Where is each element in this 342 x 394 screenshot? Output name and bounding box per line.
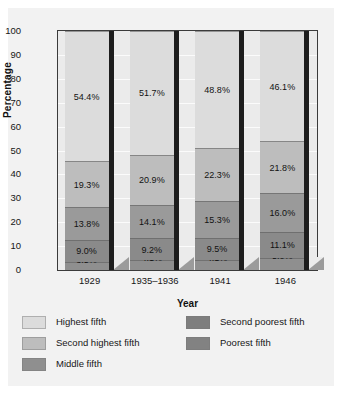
legend-swatch <box>22 316 46 329</box>
bar-segment[interactable]: 13.8% <box>65 207 109 240</box>
bar-segment-value-label: 46.1% <box>260 82 304 91</box>
y-axis-tick-label: 20 <box>0 217 21 227</box>
bar-segment-value-label: 51.7% <box>130 89 174 98</box>
legend-label: Middle fifth <box>56 357 102 371</box>
bar-drop-shadow <box>243 257 259 270</box>
bar-segment-value-label: 9.0% <box>65 247 109 256</box>
y-axis-tick-label: 70 <box>0 98 21 108</box>
bar-segment-value-label: 14.1% <box>130 217 174 226</box>
bar-drop-shadow <box>113 257 129 270</box>
y-axis-tick-label: 50 <box>0 146 21 156</box>
stacked-bar[interactable]: 4.1%9.2%14.1%20.9%51.7% <box>130 31 174 270</box>
legend-label: Poorest fifth <box>220 336 271 350</box>
bar-segment[interactable]: 5.0% <box>260 258 304 270</box>
bar-segment[interactable]: 3.5% <box>65 262 109 270</box>
bar-drop-shadow <box>308 257 324 270</box>
bar-segment-value-label: 54.4% <box>65 92 109 101</box>
bar-segment[interactable]: 14.1% <box>130 205 174 239</box>
bar-segment-value-label: 13.8% <box>65 220 109 229</box>
plot-area: 3.5%9.0%13.8%19.3%54.4%4.1%9.2%14.1%20.9… <box>57 30 318 271</box>
bar-segment[interactable]: 4.1% <box>195 260 239 270</box>
bar-segment-value-label: 9.2% <box>130 245 174 254</box>
bar-group: 4.1%9.2%14.1%20.9%51.7% <box>130 31 174 270</box>
bar-segment[interactable]: 9.5% <box>195 238 239 261</box>
bar-segment-value-label: 22.3% <box>195 170 239 179</box>
bar-segment[interactable]: 9.0% <box>65 240 109 262</box>
legend-swatch <box>22 358 46 371</box>
bar-segment[interactable]: 54.4% <box>65 31 109 161</box>
y-axis-tick-label: 30 <box>0 193 21 203</box>
bar-segment-value-label: 20.9% <box>130 176 174 185</box>
bar-segment-value-label: 15.3% <box>195 215 239 224</box>
bar-side-face <box>109 31 114 270</box>
bar-segment[interactable]: 4.1% <box>130 260 174 270</box>
bar-segment-value-label: 16.0% <box>260 208 304 217</box>
y-axis-tick-label: 80 <box>0 74 21 84</box>
bar-segment[interactable]: 15.3% <box>195 201 239 238</box>
bar-drop-shadow <box>178 257 194 270</box>
bar-segment-value-label: 21.8% <box>260 163 304 172</box>
chart-legend: Highest fifthSecond highest fifthMiddle … <box>22 313 322 375</box>
legend-swatch <box>186 337 210 350</box>
x-axis-title: Year <box>57 298 318 309</box>
bar-segment[interactable]: 9.2% <box>130 238 174 260</box>
bar-segment-value-label: 48.8% <box>195 85 239 94</box>
stacked-bar[interactable]: 3.5%9.0%13.8%19.3%54.4% <box>65 31 109 270</box>
bar-group: 3.5%9.0%13.8%19.3%54.4% <box>65 31 109 270</box>
y-axis-tick-label: 40 <box>0 169 21 179</box>
legend-label: Second poorest fifth <box>220 315 305 329</box>
chart-figure: Percentage 1009080706050403020100 3.5%9.… <box>8 8 334 386</box>
bar-segment-value-label: 9.5% <box>195 245 239 254</box>
legend-label: Second highest fifth <box>56 336 139 350</box>
bar-segment[interactable]: 11.1% <box>260 232 304 259</box>
bar-segment[interactable]: 21.8% <box>260 141 304 193</box>
y-axis-tick-label: 0 <box>0 265 21 275</box>
bar-group: 4.1%9.5%15.3%22.3%48.8% <box>195 31 239 270</box>
bar-side-face <box>304 31 309 270</box>
x-axis-tick-label: 1946 <box>240 275 330 286</box>
bar-segment[interactable]: 20.9% <box>130 155 174 205</box>
bar-side-face <box>239 31 244 270</box>
bar-segment-value-label: 19.3% <box>65 180 109 189</box>
y-axis-tick-label: 100 <box>0 26 21 36</box>
stacked-bar[interactable]: 5.0%11.1%16.0%21.8%46.1% <box>260 31 304 270</box>
legend-swatch <box>22 337 46 350</box>
y-axis-tick-label: 90 <box>0 50 21 60</box>
bar-segment[interactable]: 19.3% <box>65 161 109 207</box>
bar-segment[interactable]: 22.3% <box>195 148 239 201</box>
bar-segment[interactable]: 51.7% <box>130 31 174 155</box>
bar-segment[interactable]: 48.8% <box>195 31 239 148</box>
bar-side-face <box>174 31 179 270</box>
stacked-bar[interactable]: 4.1%9.5%15.3%22.3%48.8% <box>195 31 239 270</box>
y-axis-title: Percentage <box>2 62 13 118</box>
bar-segment-value-label: 11.1% <box>260 241 304 250</box>
bar-group: 5.0%11.1%16.0%21.8%46.1% <box>260 31 304 270</box>
legend-swatch <box>186 316 210 329</box>
bar-segment[interactable]: 46.1% <box>260 31 304 141</box>
bar-segment[interactable]: 16.0% <box>260 193 304 231</box>
y-axis-tick-label: 10 <box>0 241 21 251</box>
legend-label: Highest fifth <box>56 315 106 329</box>
y-axis-tick-label: 60 <box>0 122 21 132</box>
